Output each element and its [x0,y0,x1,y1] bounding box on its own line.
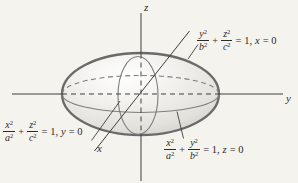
equation-tail: = 1,x= 0 [236,35,277,46]
fraction-1: y2 b2 [197,29,209,52]
x-axis-label: x [97,143,102,154]
fraction-denominator: b2 [197,41,209,52]
plus-sign: + [18,126,24,137]
y-axis-label: y [286,93,291,104]
equation-xz-trace: x2 a2 + z2 c2 = 1,y= 0 [3,120,82,143]
equation-yz-trace: y2 b2 + z2 c2 = 1,x= 0 [197,29,276,52]
ellipsoid-traces-diagram: z y x y2 b2 + z2 c2 = 1,x= 0 x2 a2 + z2 … [0,0,298,183]
fraction-numerator: z2 [221,29,232,41]
z-axis-label: z [144,2,148,13]
fraction-numerator: x2 [3,120,15,132]
fraction-2: z2 c2 [221,29,233,52]
plus-sign: + [179,144,185,155]
fraction-numerator: y2 [197,29,209,41]
fraction-numerator: z2 [27,120,38,132]
fraction-1: x2 a2 [3,120,15,143]
fraction-1: x2 a2 [164,138,176,161]
fraction-denominator: a2 [3,132,15,143]
equation-tail: = 1,y= 0 [42,126,83,137]
plus-sign: + [212,35,218,46]
equation-tail: = 1,z= 0 [203,144,243,155]
equation-xy-trace: x2 a2 + y2 b2 = 1,z= 0 [164,138,243,161]
fraction-numerator: y2 [188,138,200,150]
ellipsoid-figure-canvas [0,0,298,183]
fraction-2: y2 b2 [188,138,200,161]
fraction-numerator: x2 [164,138,176,150]
fraction-2: z2 c2 [27,120,39,143]
fraction-denominator: c2 [221,41,233,52]
fraction-denominator: b2 [188,150,200,161]
fraction-denominator: a2 [164,150,176,161]
fraction-denominator: c2 [27,132,39,143]
